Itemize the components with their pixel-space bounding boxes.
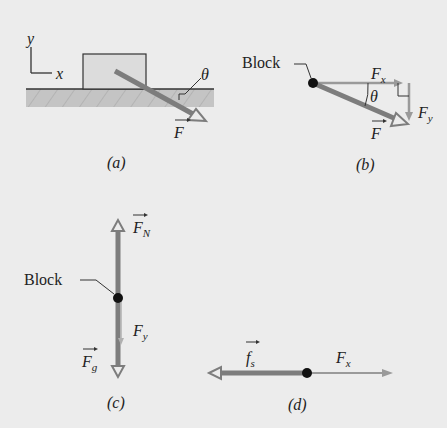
- fx-label: Fx: [335, 349, 351, 369]
- caption-a: (a): [107, 154, 126, 172]
- axes-icon: [31, 47, 52, 73]
- block-label: Block: [242, 54, 280, 71]
- panel-a: y x θ F (a): [25, 30, 214, 172]
- theta-label: θ: [201, 66, 209, 83]
- y-axis-label: y: [25, 30, 35, 48]
- caption-c: (c): [107, 394, 125, 412]
- fn-label: FN: [132, 219, 151, 239]
- fy-label: Fy: [417, 104, 433, 124]
- block-label: Block: [24, 271, 62, 288]
- caption-d: (d): [288, 396, 307, 414]
- block-dot: [308, 78, 318, 88]
- arrowhead-icon: [209, 367, 221, 379]
- panel-b: Block θ Fx Fy F (b): [242, 54, 433, 174]
- block-dot: [113, 293, 123, 303]
- panel-c: Block FN Fy Fg (c): [24, 213, 151, 412]
- arrowhead-icon: [112, 220, 124, 231]
- free-body-diagram-figure: y x θ F (a) Block θ Fx Fy F: [0, 0, 447, 428]
- fg-label: Fg: [81, 353, 98, 373]
- arrowhead-icon: [391, 113, 408, 126]
- force-f-label: F: [370, 125, 381, 142]
- force-f-arrow: [313, 83, 396, 119]
- force-f-label: F: [173, 124, 184, 141]
- block-dot: [302, 368, 312, 378]
- fs-label: fs: [246, 349, 255, 369]
- theta-label: θ: [370, 88, 378, 105]
- arrowhead-icon: [112, 366, 124, 377]
- fy-label: Fy: [132, 322, 148, 342]
- panel-d: fs Fx (d): [209, 340, 393, 414]
- ground-hatch: [26, 89, 214, 107]
- x-axis-label: x: [55, 65, 63, 82]
- caption-b: (b): [356, 156, 375, 174]
